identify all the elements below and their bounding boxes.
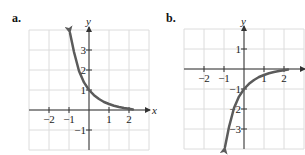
x-tick-label: 2 xyxy=(281,72,287,84)
x-tick-label: 1 xyxy=(106,113,112,125)
y-tick-label: 3 xyxy=(81,44,87,56)
x-axis-label: x xyxy=(151,104,157,116)
panel-a-graph: −2−112−1123yxa. xyxy=(12,11,157,150)
exponential-curve xyxy=(70,33,133,109)
y-axis-label: y xyxy=(240,15,246,27)
exponential-curve xyxy=(225,70,288,147)
y-tick-label: 1 xyxy=(236,43,242,55)
y-tick-label: −1 xyxy=(229,83,241,95)
x-tick-label: −2 xyxy=(198,72,210,84)
x-tick-label: −1 xyxy=(218,72,230,84)
panel-label: a. xyxy=(12,11,21,25)
y-tick-label: −1 xyxy=(74,124,86,136)
y-axis-label: y xyxy=(85,15,91,27)
x-tick-label: 2 xyxy=(126,113,132,125)
panel-label: b. xyxy=(166,11,176,25)
x-tick-label: −1 xyxy=(63,113,75,125)
chart-figure: −2−112−1123yxa. −2−112−3−2−11yb. xyxy=(0,0,305,155)
panel-b-graph: −2−112−3−2−11yb. xyxy=(166,11,305,149)
y-tick-label: −3 xyxy=(229,123,241,135)
x-tick-label: −2 xyxy=(43,113,55,125)
